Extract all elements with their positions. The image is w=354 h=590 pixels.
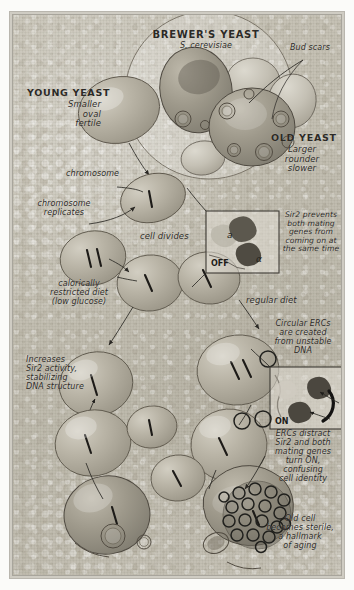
title-brewers-yeast: BREWER'S YEAST xyxy=(144,29,268,40)
illustration-poster: a α OFF xyxy=(0,0,354,590)
leader-sir2-activity xyxy=(89,399,95,413)
label-old-yeast-body: Larger rounder slower xyxy=(269,145,335,174)
label-cell-divides: cell divides xyxy=(140,232,189,242)
inset-off-panel: a α OFF xyxy=(187,188,279,287)
caption-ercs-distract: ERCs distract Sir2 and both mating genes… xyxy=(265,430,341,484)
arrow-calorie-branch xyxy=(109,307,133,345)
label-old-yeast-head: OLD YEAST xyxy=(271,133,337,144)
inset-on-panel: ON xyxy=(251,349,342,429)
cell-cr-old xyxy=(59,470,155,559)
leader-rd-small-to-old xyxy=(209,470,216,489)
leader-erc-chain xyxy=(239,405,251,425)
caption-sir2-prevents: Sir2 prevents both mating genes from com… xyxy=(279,211,342,254)
poster-canvas: a α OFF xyxy=(12,14,342,576)
label-calorie-restricted-diet: calorically restricted diet (low glucose… xyxy=(35,280,123,307)
arrow-replicate-to-divide xyxy=(109,259,129,272)
subtitle-species: S. cerevisiae xyxy=(152,42,260,51)
leader-chromosome xyxy=(117,187,143,192)
svg-text:a: a xyxy=(227,230,233,240)
label-chromosome-replicates: chromosome replicates xyxy=(28,200,100,218)
leader-cr-chain xyxy=(101,412,107,433)
cell-chromosome xyxy=(115,166,192,230)
label-young-yeast-body: Smaller oval fertile xyxy=(27,100,101,129)
svg-text:α: α xyxy=(256,254,262,264)
caption-increases-sir2: Increases Sir2 activity, stabilizing DNA… xyxy=(26,356,84,392)
label-bud-scars: Bud scars xyxy=(290,44,330,53)
label-chromosome: chromosome xyxy=(66,170,119,179)
label-regular-diet: regular diet xyxy=(246,296,297,306)
arrow-young-to-lineage xyxy=(129,143,149,175)
svg-text:ON: ON xyxy=(275,417,289,426)
arrow-ercs-to-old-cell xyxy=(245,456,265,489)
svg-text:OFF: OFF xyxy=(211,259,229,268)
cell-rd-small xyxy=(149,452,208,503)
cell-dividing-pair xyxy=(114,249,242,314)
bud-scars-leader-line xyxy=(249,60,303,119)
caption-circular-ercs: Circular ERCs are created from unstable … xyxy=(265,320,341,356)
label-young-yeast-head: YOUNG YEAST xyxy=(27,88,110,99)
cell-cr-daughter-2 xyxy=(124,403,179,452)
leader-cr-chain-2 xyxy=(81,415,87,429)
leader-cr-to-old xyxy=(86,463,103,499)
cell-rd-daughter xyxy=(189,406,271,483)
cell-cr-daughter-1 xyxy=(50,404,136,482)
caption-old-cell-sterile: Old cell becomes sterile, a hallmark of … xyxy=(258,515,342,551)
